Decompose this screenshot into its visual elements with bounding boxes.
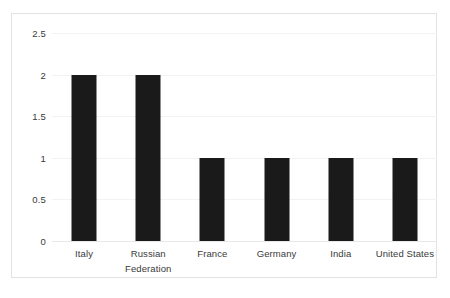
bar[interactable] <box>72 75 97 241</box>
category-label: Italy <box>50 246 117 261</box>
plot-area: 00.511.522.5 ItalyRussian FederationFran… <box>52 33 437 241</box>
bar-slot <box>116 33 180 241</box>
y-axis-tick-label: 0 <box>41 236 46 247</box>
y-axis-tick-label: 1.5 <box>32 111 46 122</box>
y-axis-tick-label: 1 <box>41 152 46 163</box>
plot-frame: 00.511.522.5 ItalyRussian FederationFran… <box>11 13 437 278</box>
y-axis-tick-label: 2 <box>41 69 46 80</box>
bar[interactable] <box>392 158 417 241</box>
y-axis-tick-label: 2.5 <box>32 28 46 39</box>
bars-group <box>52 33 437 241</box>
category-axis-labels: ItalyRussian FederationFranceGermanyIndi… <box>52 241 437 281</box>
category-label: France <box>179 246 246 261</box>
bar[interactable] <box>200 158 225 241</box>
y-axis-tick-label: 0.5 <box>32 194 46 205</box>
category-label: India <box>307 246 374 261</box>
bar-slot <box>52 33 116 241</box>
category-label: Russian Federation <box>115 246 182 276</box>
category-label: United States <box>371 246 438 261</box>
bar-slot <box>373 33 437 241</box>
category-label: Germany <box>243 246 310 261</box>
bar-chart: 00.511.522.5 ItalyRussian FederationFran… <box>0 0 450 298</box>
bar-slot <box>309 33 373 241</box>
bar-slot <box>245 33 309 241</box>
bar[interactable] <box>136 75 161 241</box>
bar-slot <box>180 33 244 241</box>
bar[interactable] <box>264 158 289 241</box>
bar[interactable] <box>328 158 353 241</box>
